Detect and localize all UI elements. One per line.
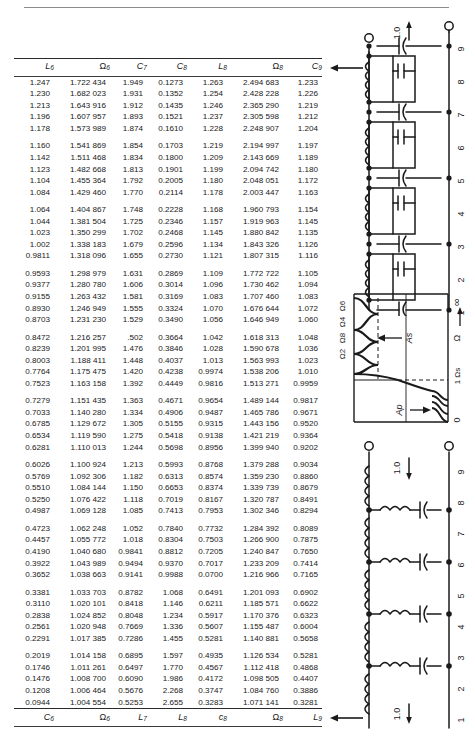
table-cell: 0.3652 — [14, 569, 54, 581]
table-body: 1.2471.722 4341.9490.12731.2632.494 6831… — [14, 77, 322, 709]
table-cell: 1.320 787 — [227, 494, 283, 506]
table-row: 0.62811.110 0131.2440.56980.89561.399 94… — [14, 442, 322, 454]
table-cell: 0.5253 — [110, 697, 147, 709]
table-cell: 1.098 505 — [227, 674, 283, 686]
table-cell: 1.185 571 — [227, 598, 283, 610]
table-cell: 1.302 346 — [227, 506, 283, 518]
table-cell: 1.379 288 — [227, 459, 283, 471]
table-cell: 1.118 — [110, 494, 147, 506]
table-cell: 0.9593 — [14, 268, 54, 280]
circuit-node-number: 4 — [456, 211, 466, 216]
table-cell: 1.060 — [283, 314, 322, 326]
table-cell: 1.607 957 — [54, 112, 110, 124]
table-header-bottom: C6Ω6L7L8c8Ω8L9 — [14, 709, 322, 728]
table-cell: 1.338 183 — [54, 239, 110, 251]
column-header-bottom-3: L8 — [147, 709, 187, 727]
table-cell: 1.482 668 — [54, 164, 110, 176]
table-cell: 1.363 — [110, 396, 147, 408]
column-header-bottom-0: C6 — [14, 709, 54, 727]
circuit-node-number: 8 — [456, 79, 466, 84]
table-row: 0.55101.084 1441.1500.66530.83741.339 73… — [14, 483, 322, 495]
table-cell: 0.0944 — [14, 697, 54, 709]
column-header-top-1: Ω6 — [54, 59, 110, 77]
table-cell: 1.085 — [110, 506, 147, 518]
table-cell: 0.9841 — [110, 546, 147, 558]
table-cell: 1.244 — [110, 442, 147, 454]
table-cell: 0.5769 — [14, 471, 54, 483]
table-cell: 1.204 — [283, 123, 322, 135]
table-cell: 1.140 280 — [54, 407, 110, 419]
filter-coefficient-table: L6Ω6C7C8L8Ω8C9 1.2471.722 4341.9490.1273… — [14, 58, 322, 727]
column-header-bottom-2: L7 — [110, 709, 147, 727]
table-row: 1.0841.429 4601.7700.21141.1782.003 4471… — [14, 187, 322, 199]
table-cell: 1.350 299 — [54, 228, 110, 240]
table-cell: 1.230 — [14, 89, 54, 101]
table-cell: 1.541 869 — [54, 141, 110, 153]
table-row: 0.12081.006 4640.56762.2680.37471.084 76… — [14, 685, 322, 697]
table-cell: 1.112 418 — [227, 662, 283, 674]
table-cell: 0.3110 — [14, 598, 54, 610]
table-cell: 0.9377 — [14, 280, 54, 292]
table-cell: 1.048 — [283, 332, 322, 344]
table-cell: 1.180 — [187, 175, 227, 187]
table-cell: 0.2114 — [147, 187, 187, 199]
table-cell: 0.9034 — [283, 459, 322, 471]
table-cell: 1.563 993 — [227, 355, 283, 367]
circuit-node-number: 4 — [456, 624, 466, 629]
table-cell: 0.1435 — [147, 100, 187, 112]
table-cell: 1.336 — [147, 622, 187, 634]
table-cell: 1.092 306 — [54, 471, 110, 483]
table-cell: 1.404 867 — [54, 204, 110, 216]
table-cell: 0.5676 — [110, 685, 147, 697]
table-cell: 1.020 101 — [54, 598, 110, 610]
table-cell: 1.748 — [110, 204, 147, 216]
table-cell: 2.048 051 — [227, 175, 283, 187]
figure-column: 987654321 1.0 — [336, 0, 475, 752]
table-cell: 0.7953 — [187, 506, 227, 518]
table-cell: 1.772 722 — [227, 268, 283, 280]
table-cell: 2.268 — [147, 685, 187, 697]
table-cell: 0.9138 — [187, 430, 227, 442]
table-cell: 0.8768 — [187, 459, 227, 471]
table-cell: 1.134 — [187, 239, 227, 251]
table-cell: 0.5607 — [187, 622, 227, 634]
table-cell: 1.216 257 — [54, 332, 110, 344]
transmission-zero-label: Ω4 — [338, 316, 347, 327]
table-cell: 1.028 — [187, 343, 227, 355]
table-cell: 1.246 949 — [54, 303, 110, 315]
table-cell: 0.6902 — [283, 587, 322, 599]
table-cell: 0.7875 — [283, 535, 322, 547]
table-cell: 0.6090 — [110, 674, 147, 686]
column-header-bottom-5: Ω8 — [227, 709, 283, 727]
table-cell: 1.094 — [283, 280, 322, 292]
table-cell: 0.2730 — [147, 251, 187, 263]
table-cell: 1.209 — [187, 152, 227, 164]
circuit-node-number: 7 — [456, 112, 466, 117]
table-row: 0.33811.033 7030.87821.0680.64911.201 09… — [14, 587, 322, 599]
table-cell: 0.3281 — [283, 697, 322, 709]
table-cell: 0.2228 — [147, 204, 187, 216]
table-cell: 0.3664 — [147, 332, 187, 344]
table-cell: 1.305 — [110, 419, 147, 431]
table-cell: 0.3014 — [147, 280, 187, 292]
table-cell: 0.5281 — [283, 651, 322, 663]
table-cell: 1.033 703 — [54, 587, 110, 599]
table-cell: 1.105 — [283, 268, 322, 280]
table-cell: 1.334 — [110, 407, 147, 419]
table-cell: 1.573 989 — [54, 123, 110, 135]
table-cell: 1.854 — [110, 141, 147, 153]
source-value-label: 1.0 — [392, 708, 402, 721]
column-header-bottom-1: Ω6 — [54, 709, 110, 727]
table-cell: 0.3283 — [187, 697, 227, 709]
table-cell: 1.006 464 — [54, 685, 110, 697]
table-cell: 1.044 — [14, 216, 54, 228]
table-cell: 0.8089 — [283, 523, 322, 535]
table-cell: 0.4906 — [147, 407, 187, 419]
table-cell: 1.100 924 — [54, 459, 110, 471]
table-cell: 1.399 940 — [227, 442, 283, 454]
table-cell: 0.6534 — [14, 430, 54, 442]
column-header-top-4: L8 — [187, 59, 227, 77]
table-row: 1.1041.455 3641.7920.20051.1802.048 0511… — [14, 175, 322, 187]
table-cell: 0.9816 — [187, 378, 227, 390]
table-cell: 1.702 — [110, 228, 147, 240]
